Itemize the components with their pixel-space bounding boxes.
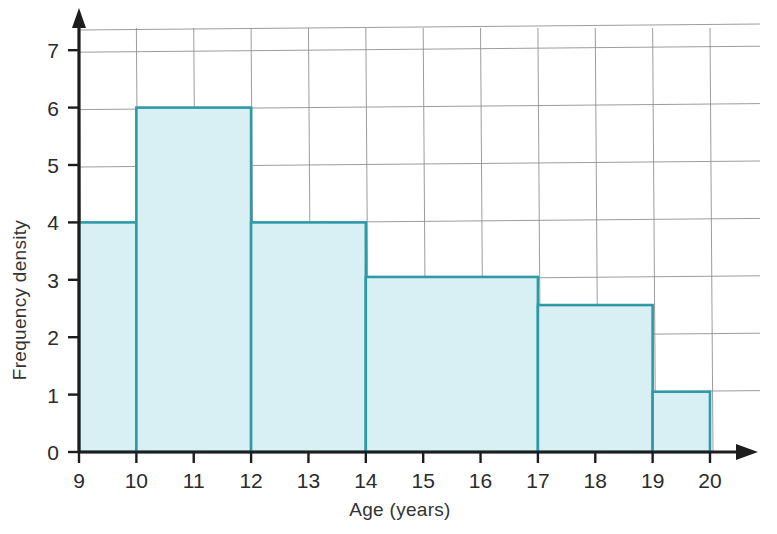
histogram-bar-12-14 [251, 222, 366, 452]
x-tick-label-11: 11 [183, 469, 205, 492]
x-tick-label-13: 13 [297, 469, 320, 492]
y-tick-label-7: 7 [47, 39, 59, 62]
x-tick-label-15: 15 [412, 469, 435, 492]
histogram-chart: 01234567 91011121314151617181920 Frequen… [0, 0, 777, 534]
x-tick-label-16: 16 [469, 469, 492, 492]
y-tick-label-0: 0 [47, 441, 59, 464]
histogram-bar-10-12 [136, 108, 251, 452]
y-axis-title: Frequency density [9, 220, 30, 381]
x-tick-label-12: 12 [239, 469, 262, 492]
histogram-svg: 01234567 91011121314151617181920 Frequen… [0, 0, 777, 534]
x-tick-label-10: 10 [125, 469, 148, 492]
x-tick-label-20: 20 [698, 469, 721, 492]
y-tick-label-4: 4 [47, 211, 59, 234]
histogram-bar-17-19 [538, 305, 653, 452]
y-tick-label-3: 3 [47, 269, 59, 292]
y-tick-label-5: 5 [47, 154, 59, 177]
x-tick-label-14: 14 [354, 469, 378, 492]
x-axis-title: Age (years) [349, 499, 451, 520]
histogram-bar-14-17 [366, 277, 538, 452]
histogram-bar-9-10 [79, 222, 136, 452]
y-tick-label-2: 2 [47, 326, 59, 349]
y-tick-label-1: 1 [47, 384, 59, 407]
x-tick-label-18: 18 [584, 469, 607, 492]
histogram-bar-19-20 [653, 392, 710, 452]
x-tick-label-17: 17 [526, 469, 549, 492]
y-tick-label-6: 6 [47, 97, 59, 120]
x-tick-label-9: 9 [73, 469, 85, 492]
x-tick-label-19: 19 [641, 469, 664, 492]
